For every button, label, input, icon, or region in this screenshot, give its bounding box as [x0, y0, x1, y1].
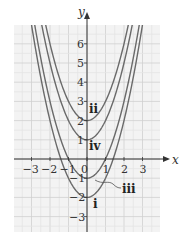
x-tick-label: 1	[103, 163, 110, 176]
y-axis-arrow-icon	[84, 12, 90, 19]
label-ii: ii	[89, 102, 99, 116]
y-tick-label: −1	[69, 172, 85, 185]
parabola-chart: xy −3−2−10123−3−2−1123456 iiiviiii	[0, 0, 186, 245]
x-tick-label: 3	[140, 163, 147, 176]
label-iii: iii	[122, 182, 136, 196]
x-tick-label: −3	[23, 163, 39, 176]
y-tick-label: −2	[69, 191, 85, 204]
y-axis-label: y	[77, 5, 85, 19]
x-axis-label: x	[172, 153, 179, 167]
y-tick-label: 6	[77, 38, 84, 51]
y-tick-label: 3	[77, 95, 84, 108]
y-tick-label: 4	[77, 76, 84, 89]
y-tick-label: −3	[69, 211, 85, 224]
x-axis-arrow-icon	[163, 156, 170, 162]
label-iv: iv	[89, 139, 102, 153]
label-i: i	[93, 197, 98, 211]
y-tick-label: 2	[77, 115, 84, 128]
y-tick-label: 5	[77, 57, 84, 70]
x-tick-label: 2	[121, 163, 128, 176]
x-tick-label: −2	[41, 163, 57, 176]
y-tick-label: 1	[77, 134, 84, 147]
